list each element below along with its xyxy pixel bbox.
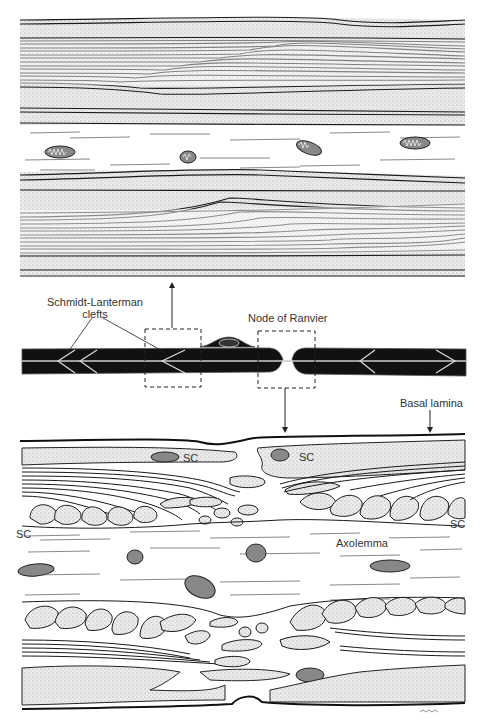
label-schmidt-lanterman-line1: Schmidt-Lanterman: [42, 296, 148, 308]
schwann-nucleus: [219, 339, 239, 347]
label-axolemma: Axolemma: [335, 537, 389, 549]
bottom-panel-node-section: [18, 434, 465, 712]
axoplasm-top: [25, 132, 460, 170]
label-schwann-cell-1: SC: [183, 452, 198, 464]
label-schmidt-lanterman-line2: clefts: [42, 308, 148, 320]
label-schwann-cell-4: SC: [450, 518, 465, 530]
label-schmidt-lanterman: Schmidt-Lanterman clefts: [42, 296, 148, 320]
nerve-fiber-diagram: [0, 0, 485, 725]
artist-signature: [420, 710, 438, 712]
top-panel-myelin-section: [20, 17, 465, 277]
label-node-of-ranvier: Node of Ranvier: [248, 312, 328, 324]
mitochondria-top: [45, 137, 430, 163]
label-basal-lamina: Basal lamina: [400, 397, 463, 409]
label-schwann-cell-2: SC: [299, 451, 314, 463]
label-schwann-cell-3: SC: [16, 528, 31, 540]
schematic-fiber: [22, 318, 466, 388]
